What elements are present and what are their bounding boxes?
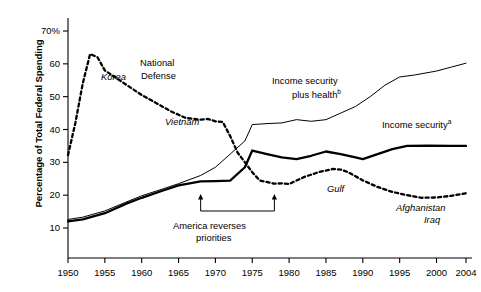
korea-label: Korea bbox=[101, 71, 126, 82]
y-tick-label: 30 bbox=[26, 156, 60, 167]
national-defense-label-2: Defense bbox=[141, 70, 176, 81]
x-tick-label: 1985 bbox=[306, 267, 346, 278]
x-tick-label: 1960 bbox=[122, 267, 162, 278]
national-defense-label: National bbox=[140, 57, 174, 68]
y-tick-label: 70% bbox=[26, 25, 60, 36]
y-tick-label: 50 bbox=[26, 91, 60, 102]
iraq-label: Iraq bbox=[424, 214, 440, 225]
y-tick-label: 60 bbox=[26, 58, 60, 69]
america-reverses-label: America reverses bbox=[173, 220, 246, 231]
priorities-label: priorities bbox=[196, 232, 231, 243]
x-tick-label: 1950 bbox=[48, 267, 88, 278]
x-tick-label: 1990 bbox=[343, 267, 383, 278]
vietnam-label: Vietnam bbox=[165, 116, 199, 127]
x-tick-label: 1975 bbox=[232, 267, 272, 278]
x-tick-label: 1995 bbox=[380, 267, 420, 278]
y-tick-label: 20 bbox=[26, 189, 60, 200]
footnote-marker: b bbox=[337, 88, 341, 95]
y-tick-label: 40 bbox=[26, 124, 60, 135]
x-tick-label: 1970 bbox=[195, 267, 235, 278]
income-security-plus-health-label-2: plus healthb bbox=[292, 86, 341, 100]
income-security-plus-health-label: Income security bbox=[272, 75, 338, 86]
x-tick-label: 2004 bbox=[446, 267, 481, 278]
income-security-label: Income securitya bbox=[382, 116, 451, 130]
footnote-marker: a bbox=[448, 118, 452, 125]
y-tick-label: 10 bbox=[26, 222, 60, 233]
gulf-label: Gulf bbox=[327, 183, 344, 194]
x-tick-label: 1955 bbox=[85, 267, 125, 278]
x-tick-label: 1965 bbox=[159, 267, 199, 278]
america-reverses-priorities-bracket bbox=[198, 194, 277, 211]
x-tick-label: 1980 bbox=[269, 267, 309, 278]
afghanistan-label: Afghanistan bbox=[396, 202, 446, 213]
